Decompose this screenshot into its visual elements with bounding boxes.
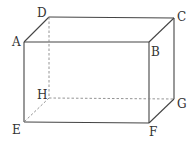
vertex-label-d: D: [37, 6, 47, 20]
edge-DC: [49, 17, 174, 18]
edge-GF: [149, 99, 174, 123]
edge-CB: [149, 18, 174, 42]
vertex-label-f: F: [149, 125, 157, 139]
vertex-label-g: G: [177, 97, 187, 111]
hidden-edge-HG: [49, 98, 174, 99]
edge-AD: [24, 17, 49, 42]
vertex-label-a: A: [11, 35, 21, 49]
edge-FE: [24, 122, 149, 123]
vertex-label-b: B: [151, 45, 160, 59]
vertex-label-e: E: [12, 123, 21, 137]
cuboid-diagram: A B C D E F G H: [0, 0, 196, 144]
vertex-label-c: C: [177, 10, 186, 24]
vertex-label-h: H: [37, 88, 47, 102]
